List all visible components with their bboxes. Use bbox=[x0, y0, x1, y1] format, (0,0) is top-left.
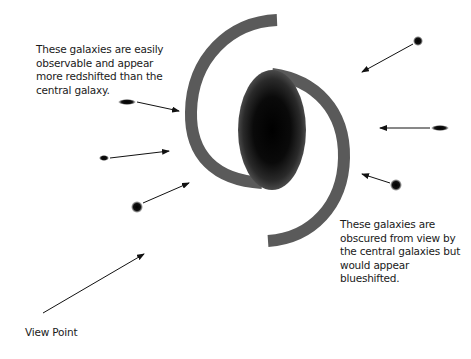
satellite-galaxy-right-3 bbox=[390, 179, 402, 191]
caption-view-point: View Point bbox=[25, 326, 105, 340]
central-galaxy-bulge bbox=[238, 70, 306, 190]
caption-redshifted-galaxies: These galaxies are easily observable and… bbox=[36, 43, 176, 97]
arrow-right-3 bbox=[362, 174, 390, 183]
satellite-galaxy-right-2 bbox=[431, 125, 449, 131]
arrow-right-1 bbox=[362, 44, 413, 72]
satellite-galaxy-left-3 bbox=[131, 201, 143, 213]
arrow-viewpoint bbox=[43, 254, 144, 313]
arrow-left-3 bbox=[143, 183, 189, 203]
arrow-left-1 bbox=[137, 102, 179, 111]
caption-blueshifted-galaxies: These galaxies are obscured from view by… bbox=[340, 218, 470, 286]
satellite-galaxy-left-1 bbox=[118, 99, 136, 105]
satellite-galaxy-right-1 bbox=[413, 36, 423, 46]
satellite-galaxy-left-2 bbox=[99, 155, 109, 161]
arrow-left-2 bbox=[110, 151, 169, 158]
